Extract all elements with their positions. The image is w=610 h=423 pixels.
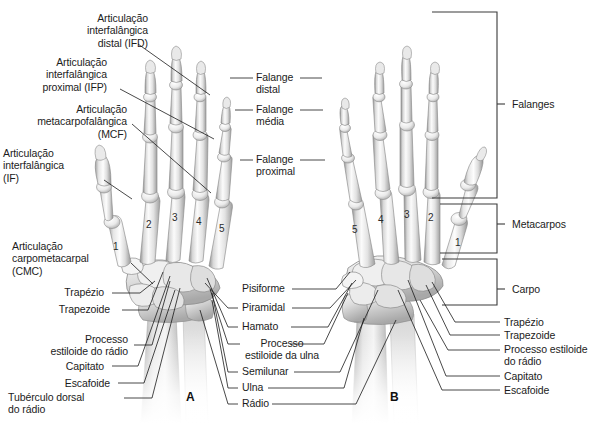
- hand-b-forearm: [340, 314, 435, 423]
- label-line: Carpo: [512, 283, 572, 295]
- digit-label-hand-a-3: 3: [172, 212, 178, 223]
- digit-label-hand-b-1: 1: [455, 237, 461, 248]
- label-line: Trapezoide: [504, 329, 588, 341]
- label-line: Trapézio: [10, 286, 104, 298]
- label-capitato-left: Capitato: [10, 360, 104, 372]
- digit-label-hand-a-5: 5: [219, 223, 225, 234]
- label-line: proximal (IFP): [0, 81, 107, 93]
- hand-b-digit-2: [423, 62, 440, 199]
- label-trapezio-right: Trapézio: [504, 316, 584, 328]
- panel-letter-a: A: [186, 390, 195, 404]
- hand-b-digit-5: [340, 98, 364, 210]
- label-line: Falange: [256, 71, 306, 83]
- label-line: Pisiforme: [242, 282, 294, 294]
- label-line: Piramidal: [242, 301, 294, 313]
- label-falange-media: Falangemédia: [256, 103, 306, 128]
- label-line: distal (IFD): [10, 37, 148, 49]
- hand-b-digit-4: [373, 62, 391, 200]
- label-line: do rádio: [504, 355, 608, 367]
- hand-b-digit-3: [399, 46, 416, 196]
- label-falange-proximal: Falangeproximal: [256, 153, 312, 178]
- label-line: interfalângica: [10, 24, 148, 36]
- label-line: Semilunar: [242, 365, 298, 377]
- panel-letter-b: B: [390, 390, 399, 404]
- label-processo-estiloide-do-radio-left: Processoestiloide do rádio: [10, 333, 128, 358]
- hand-a-digit-2: [142, 60, 159, 203]
- label-line: Articulação: [12, 240, 127, 252]
- digit-label-hand-a-4: 4: [196, 216, 202, 227]
- label-line: Capitato: [10, 360, 104, 372]
- hand-a-metacarpals: [109, 189, 233, 269]
- label-piramidal: Piramidal: [242, 301, 294, 313]
- label-falange-distal: Falangedistal: [256, 71, 306, 96]
- label-falanges: Falanges: [512, 98, 592, 110]
- digit-label-hand-b-2: 2: [428, 212, 434, 223]
- label-line: Articulação: [3, 147, 103, 159]
- label-radio: Rádio: [242, 397, 286, 409]
- label-line: Trapézio: [504, 316, 584, 328]
- label-line: Metacarpos: [512, 218, 598, 230]
- label-line: distal: [256, 83, 306, 95]
- label-processo-estiloide-do-radio-right: Processo estiloidedo rádio: [504, 343, 608, 368]
- label-line: interfalângica: [0, 68, 107, 80]
- label-line: Articulação: [10, 12, 148, 24]
- hand-a-digit-4: [192, 61, 208, 201]
- hand-a-forearm: [130, 312, 225, 423]
- label-line: metacarpofalângica: [0, 115, 127, 127]
- label-trapezoide-left: Trapezoide: [10, 303, 110, 315]
- label-line: estiloide do rádio: [10, 345, 128, 357]
- label-line: interfalângica: [3, 159, 103, 171]
- label-line: Processo: [10, 333, 128, 345]
- label-line: proximal: [256, 165, 312, 177]
- label-line: carpometacarpal: [12, 252, 127, 264]
- label-ulna: Ulna: [242, 381, 282, 393]
- label-line: (IF): [3, 172, 103, 184]
- label-line: Tubérculo dorsal: [8, 391, 126, 403]
- label-articulacao-metacarpofalangica: Articulaçãometacarpofalângica(MCF): [0, 103, 127, 140]
- digit-label-hand-a-1: 1: [113, 241, 119, 252]
- label-line: Articulação: [0, 56, 107, 68]
- label-line: Falanges: [512, 98, 592, 110]
- label-line: Falange: [256, 103, 306, 115]
- label-metacarpos: Metacarpos: [512, 218, 598, 230]
- hand-a-digit-3: [168, 46, 185, 199]
- digit-label-hand-b-3: 3: [404, 209, 410, 220]
- label-line: (CMC): [12, 265, 127, 277]
- label-articulacao-interfalangica-proximal: Articulaçãointerfalângicaproximal (IFP): [0, 56, 107, 93]
- label-line: Ulna: [242, 381, 282, 393]
- label-line: Escafoide: [10, 377, 110, 389]
- hand-b-thumb: [451, 147, 487, 226]
- label-line: Processo: [234, 337, 330, 349]
- label-capitato-right: Capitato: [504, 370, 574, 382]
- label-line: Hamato: [242, 320, 294, 332]
- label-line: Escafoide: [504, 384, 578, 396]
- label-line: Trapezoide: [10, 303, 110, 315]
- label-tuberculo-dorsal-do-radio: Tubérculo dorsaldo rádio: [8, 391, 126, 416]
- label-line: Capitato: [504, 370, 574, 382]
- label-articulacao-interfalangica: Articulaçãointerfalângica(IF): [3, 147, 103, 184]
- label-semilunar: Semilunar: [242, 365, 298, 377]
- digit-label-hand-b-5: 5: [352, 224, 358, 235]
- label-line: (MCF): [0, 128, 127, 140]
- label-carpo: Carpo: [512, 283, 572, 295]
- label-trapezio-left: Trapézio: [10, 286, 104, 298]
- label-line: Processo estiloide: [504, 343, 608, 355]
- label-line: estiloide da ulna: [234, 349, 330, 361]
- label-articulacao-carpometacarpal: Articulaçãocarpometacarpal(CMC): [12, 240, 127, 277]
- label-line: do rádio: [8, 403, 126, 415]
- label-line: média: [256, 115, 306, 127]
- hand-a-digit-5: [215, 97, 233, 208]
- label-processo-estiloide-da-ulna: Processoestiloide da ulna: [234, 337, 330, 362]
- label-trapezoide-right: Trapezoide: [504, 329, 588, 341]
- label-pisiforme: Pisiforme: [242, 282, 294, 294]
- digit-label-hand-a-2: 2: [146, 219, 152, 230]
- label-escafoide-left: Escafoide: [10, 377, 110, 389]
- label-escafoide-right: Escafoide: [504, 384, 578, 396]
- label-articulacao-interfalangica-distal: Articulaçãointerfalângicadistal (IFD): [10, 12, 148, 49]
- figure-hand-skeleton: Articulaçãointerfalângicadistal (IFD) Ar…: [0, 0, 610, 423]
- digit-label-hand-b-4: 4: [378, 214, 384, 225]
- hand-b-skeleton: [340, 46, 487, 423]
- label-line: Falange: [256, 153, 312, 165]
- label-line: Articulação: [0, 103, 127, 115]
- label-line: Rádio: [242, 397, 286, 409]
